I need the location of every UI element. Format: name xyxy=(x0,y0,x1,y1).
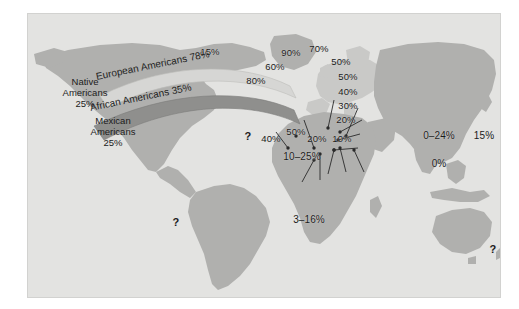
map-label-canada: 15% xyxy=(200,47,219,58)
map-label-scandinavia: 70% xyxy=(309,44,328,55)
map-label-egypt: 20% xyxy=(307,134,326,145)
map-label-south-america: ? xyxy=(173,217,180,228)
map-label-britain: 90% xyxy=(281,48,300,59)
map-label-sub-saharan-africa: 3–16% xyxy=(293,215,325,226)
map-label-southeast-china: 0% xyxy=(432,159,447,170)
map-label-iberia: 80% xyxy=(246,76,265,87)
map-label-italy-south: 50% xyxy=(286,127,305,138)
world-map-plate: European Americans 78% African Americans… xyxy=(27,13,501,298)
map-label-france: 60% xyxy=(265,62,284,73)
map-label-eastern-europe: 40% xyxy=(338,87,357,98)
map-label-china: 0–24% xyxy=(423,131,455,142)
group-mexican-americans-line2: Americans xyxy=(91,126,136,137)
group-native-americans-line2: Americans xyxy=(63,87,108,98)
map-label-anatolia: 20% xyxy=(336,115,355,126)
group-mexican-americans-value: 25% xyxy=(91,137,136,148)
group-native-americans-line1: Native xyxy=(63,76,108,87)
figure-root: European Americans 78% African Americans… xyxy=(0,0,519,309)
map-label-arabia: 10% xyxy=(332,134,351,145)
map-label-north-africa-west: ? xyxy=(245,131,252,142)
map-label-morocco: 40% xyxy=(261,134,280,145)
map-label-central-europe: 50% xyxy=(338,72,357,83)
group-native-americans: Native Americans 25% xyxy=(63,76,108,109)
group-mexican-americans-line1: Mexican xyxy=(91,115,136,126)
group-mexican-americans: Mexican Americans 25% xyxy=(91,115,136,148)
map-label-balkans: 30% xyxy=(338,101,357,112)
group-native-americans-value: 25% xyxy=(63,98,108,109)
map-label-japan: 15% xyxy=(474,131,494,142)
world-map-svg xyxy=(28,14,500,297)
map-label-sahel: 10–25% xyxy=(283,152,320,163)
map-label-baltic: 50% xyxy=(331,57,350,68)
map-label-australia: ? xyxy=(490,244,497,255)
